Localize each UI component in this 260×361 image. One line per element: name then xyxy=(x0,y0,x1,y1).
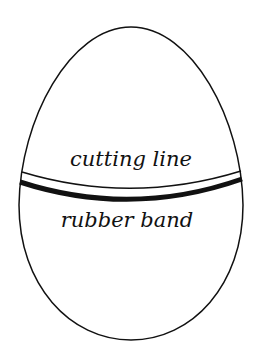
rubber-band xyxy=(20,179,242,199)
cutting-line xyxy=(22,171,241,188)
egg-outline xyxy=(19,27,243,340)
egg-diagram: cutting line rubber band xyxy=(0,0,260,361)
cutting-line-label: cutting line xyxy=(70,147,192,171)
rubber-band-label: rubber band xyxy=(61,208,194,232)
